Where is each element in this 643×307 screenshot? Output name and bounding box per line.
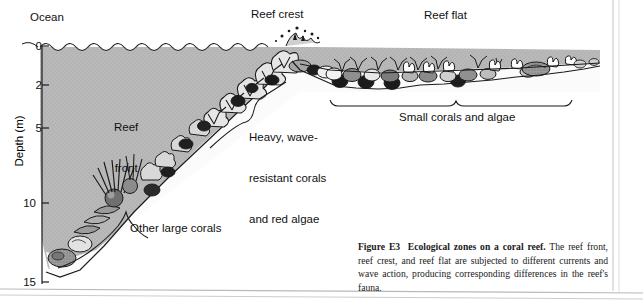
heavy-wave-resistant-corals-label: Heavy, wave- resistant corals and red al… — [249, 104, 326, 240]
figure-caption-title: Ecological zones on a coral reef. — [408, 241, 546, 252]
reef-front-label-line2: front — [114, 162, 138, 176]
reef-front-label: Reef front — [114, 94, 138, 189]
reef-crest-label: Reef crest — [251, 8, 303, 22]
depth-tick-15: 15 — [14, 276, 36, 288]
heavy-label-line2: resistant corals — [249, 172, 326, 186]
heavy-label-line1: Heavy, wave- — [249, 131, 326, 145]
figure-caption: Figure E3 Ecological zones on a coral re… — [358, 240, 608, 294]
small-corals-bracket — [330, 100, 572, 106]
heavy-label-line3: and red algae — [249, 213, 326, 227]
small-corals-and-algae-label: Small corals and algae — [399, 111, 515, 125]
reef-crest-splash — [275, 26, 320, 46]
depth-tick-2: 2 — [20, 79, 42, 91]
reef-flat-label: Reef flat — [424, 9, 467, 23]
depth-axis-title: Depth (m) — [13, 106, 25, 176]
depth-tick-5: 5 — [20, 122, 42, 134]
figure-caption-label: Figure E3 — [358, 241, 400, 252]
other-large-corals-label: Other large corals — [130, 222, 221, 236]
depth-tick-10: 10 — [14, 197, 36, 209]
reef-front-label-line1: Reef — [114, 121, 138, 135]
depth-tick-0: 0 — [20, 40, 42, 52]
ocean-label: Ocean — [30, 11, 64, 25]
